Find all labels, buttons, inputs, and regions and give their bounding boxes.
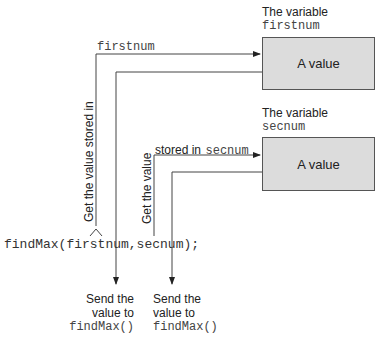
arrow-var-label: firstnum — [97, 40, 155, 54]
variable-value: A value — [297, 157, 340, 172]
send-func: findMax() — [153, 320, 233, 334]
function-call-code: findMax(firstnum,secnum); — [4, 238, 199, 252]
variable-caption: The variable — [262, 106, 328, 120]
send-func: findMax() — [64, 320, 134, 334]
arrow-get-label: Get the value stored in — [82, 101, 96, 222]
send-line: Send the — [64, 292, 134, 306]
variable-name: firstnum — [262, 19, 320, 33]
arrow-stored-label: stored in — [155, 143, 201, 157]
send-line: Send the — [153, 292, 233, 306]
arrow-stored-label-group: stored in secnum — [155, 140, 249, 158]
send-label-2: Send the value to findMax() — [153, 292, 233, 334]
arrow-get-label: Get the value — [140, 153, 154, 224]
send-line: value to — [153, 306, 233, 320]
variable-box-firstnum: A value — [262, 37, 375, 90]
send-line: value to — [64, 306, 134, 320]
arrow-var-label: secnum — [205, 144, 248, 158]
variable-name: secnum — [262, 120, 305, 134]
variable-caption: The variable — [262, 5, 328, 19]
variable-box-secnum: A value — [262, 137, 375, 191]
variable-value: A value — [297, 56, 340, 71]
send-label-1: Send the value to findMax() — [64, 292, 134, 334]
